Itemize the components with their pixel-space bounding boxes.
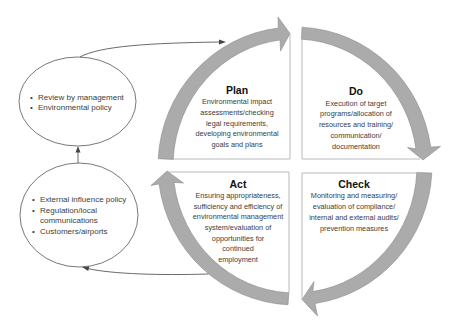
quadrant-plan: Plan Environmental impact assessments/ch…	[195, 84, 279, 149]
do-line: documentation	[332, 142, 380, 151]
ellipse-item-continued: communications	[40, 216, 98, 225]
quadrant-do: Do Execution of target programs/allocati…	[319, 85, 394, 151]
ellipse-item: Regulation/local	[40, 206, 97, 215]
act-line: system/evaluation of	[205, 223, 272, 232]
bullet-icon: •	[30, 103, 33, 112]
cycle-arrows	[151, 17, 441, 316]
plan-line: goals and plans	[211, 140, 262, 149]
check-title: Check	[338, 178, 370, 190]
ellipse-item: Review by management	[38, 93, 125, 102]
do-line: Execution of target	[326, 99, 387, 108]
arrowhead-icon	[76, 146, 81, 153]
ellipse-item: External influence policy	[40, 195, 126, 204]
do-line: programs/allocation of	[320, 109, 393, 118]
act-line: employment	[218, 255, 258, 264]
act-line: environmental management	[193, 212, 283, 221]
quadrant-check: Check Monitoring and measuring/ evaluati…	[309, 178, 400, 233]
act-line: opportunities for	[212, 234, 265, 243]
act-title: Act	[230, 178, 247, 190]
diagram-svg: Plan Environmental impact assessments/ch…	[0, 0, 460, 328]
act-line: continued	[222, 244, 254, 253]
pdca-diagram: Plan Environmental impact assessments/ch…	[0, 0, 460, 328]
act-line: Ensuring appropriateness,	[195, 191, 280, 200]
bullet-icon: •	[30, 93, 33, 102]
bullet-icon: •	[32, 227, 35, 236]
connector-act-to-external	[88, 269, 209, 275]
check-line: prevention measures	[320, 224, 388, 233]
connector-review-to-plan	[80, 42, 220, 57]
do-line: resources and training/	[319, 120, 394, 129]
act-line: sufficiency and efficiency of	[194, 202, 284, 211]
do-title: Do	[349, 85, 363, 97]
check-line: Monitoring and measuring/	[311, 191, 398, 200]
check-line: evaluation of compliance/	[313, 202, 396, 211]
ellipse-shape	[19, 57, 136, 146]
ellipse-shape	[20, 163, 138, 267]
ellipse-external-influence: • External influence policy • Regulation…	[20, 163, 138, 267]
plan-line: legal requirements,	[206, 119, 268, 128]
ellipse-item: Customers/airports	[40, 227, 108, 236]
plan-line: assessments/checking	[200, 108, 273, 117]
plan-line: developing environmental	[195, 129, 279, 138]
bullet-icon: •	[32, 195, 35, 204]
ellipse-management-review: • Review by management • Environmental p…	[19, 57, 136, 146]
plan-line: Environmental impact	[202, 97, 272, 106]
quadrant-act: Act Ensuring appropriateness, sufficienc…	[193, 178, 283, 264]
ellipse-item: Environmental policy	[38, 103, 112, 112]
check-line: internal and external audits/	[309, 213, 400, 222]
bullet-icon: •	[32, 206, 35, 215]
plan-title: Plan	[226, 84, 248, 96]
arrowhead-icon	[219, 39, 226, 44]
do-line: communication/	[330, 131, 382, 140]
